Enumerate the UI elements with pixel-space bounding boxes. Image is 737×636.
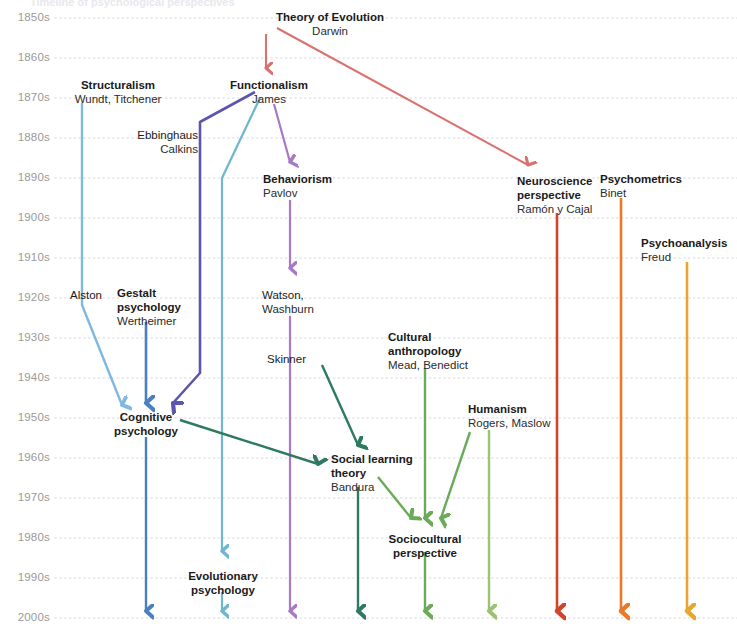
node-theory-of-evolution-subtitle: Darwin <box>276 24 384 38</box>
node-sociocultural-perspective[interactable]: Sociocultural perspective <box>389 532 462 560</box>
flow-humanism-to-sociocultural <box>441 432 470 518</box>
decade-label-1890s: 1890s <box>4 171 50 183</box>
node-theory-of-evolution-title: Theory of Evolution <box>276 10 384 24</box>
decade-label-1880s: 1880s <box>4 131 50 143</box>
flow-structuralism-to-cognitive <box>82 103 122 405</box>
node-cultural-anthropology-subtitle: Mead, Benedict <box>388 358 468 372</box>
node-gestalt-psychology[interactable]: Gestalt psychology Wertheimer <box>117 286 181 328</box>
node-behaviorism-title: Behaviorism <box>263 172 332 186</box>
decade-label-1910s: 1910s <box>4 251 50 263</box>
node-cognitive-psychology-title: Cognitive psychology <box>114 410 178 438</box>
node-ebbinghaus-calkins[interactable]: Ebbinghaus Calkins <box>137 128 198 156</box>
node-structuralism-title: Structuralism <box>75 78 162 92</box>
node-psychometrics-title: Psychometrics <box>600 172 682 186</box>
decade-label-1900s: 1900s <box>4 211 50 223</box>
node-functionalism-title: Functionalism <box>230 78 308 92</box>
decade-label-2000s: 2000s <box>4 611 50 623</box>
decade-label-1850s: 1850s <box>4 11 50 23</box>
node-psychoanalysis[interactable]: Psychoanalysis Freud <box>641 236 727 264</box>
node-cultural-anthropology[interactable]: Cultural anthropology Mead, Benedict <box>388 330 468 372</box>
node-behaviorism-subtitle: Pavlov <box>263 186 332 200</box>
decade-label-1920s: 1920s <box>4 291 50 303</box>
flow-darwin-to-neuroscience <box>277 28 528 165</box>
node-alston-title: Alston <box>70 288 102 302</box>
node-structuralism[interactable]: Structuralism Wundt, Titchener <box>75 78 162 106</box>
node-evolutionary-psychology-title: Evolutionary psychology <box>188 569 258 597</box>
node-ebbinghaus-calkins-title: Ebbinghaus <box>137 128 198 142</box>
node-cognitive-psychology[interactable]: Cognitive psychology <box>114 410 178 438</box>
node-gestalt-psychology-title: Gestalt psychology <box>117 286 181 314</box>
node-functionalism[interactable]: Functionalism James <box>230 78 308 106</box>
node-psychometrics[interactable]: Psychometrics Binet <box>600 172 682 200</box>
node-psychoanalysis-subtitle: Freud <box>641 250 727 264</box>
node-social-learning-theory-subtitle: Bandura <box>331 480 413 494</box>
decade-label-1860s: 1860s <box>4 51 50 63</box>
decade-label-1950s: 1950s <box>4 411 50 423</box>
node-psychoanalysis-title: Psychoanalysis <box>641 236 727 250</box>
node-functionalism-subtitle: James <box>230 92 308 106</box>
node-social-learning-theory[interactable]: Social learning theory Bandura <box>331 452 413 494</box>
node-neuroscience-perspective[interactable]: Neuroscience perspective Ramón y Cajal <box>517 174 592 216</box>
timeline-diagram: Timeline of psychological perspectives <box>0 0 737 636</box>
decade-label-1990s: 1990s <box>4 571 50 583</box>
node-gestalt-psychology-subtitle: Wertheimer <box>117 314 181 328</box>
decade-label-1930s: 1930s <box>4 331 50 343</box>
node-watson-washburn-subtitle: Washburn <box>262 302 314 316</box>
decade-label-1870s: 1870s <box>4 91 50 103</box>
flow-functionalism-to-behaviorism <box>274 104 290 162</box>
node-psychometrics-subtitle: Binet <box>600 186 682 200</box>
node-cultural-anthropology-title: Cultural anthropology <box>388 330 468 358</box>
decade-label-1940s: 1940s <box>4 371 50 383</box>
node-ebbinghaus-calkins-subtitle: Calkins <box>137 142 198 156</box>
decade-label-1970s: 1970s <box>4 491 50 503</box>
flow-skinner-to-social-learning <box>322 365 358 445</box>
node-social-learning-theory-title: Social learning theory <box>331 452 413 480</box>
node-watson-washburn[interactable]: Watson, Washburn <box>262 288 314 316</box>
node-humanism-title: Humanism <box>468 402 550 416</box>
decade-label-1960s: 1960s <box>4 451 50 463</box>
node-theory-of-evolution[interactable]: Theory of Evolution Darwin <box>276 10 384 38</box>
node-neuroscience-perspective-title: Neuroscience perspective <box>517 174 592 202</box>
node-evolutionary-psychology[interactable]: Evolutionary psychology <box>188 569 258 597</box>
flow-functionalism-to-evolutionary <box>222 98 260 551</box>
node-humanism[interactable]: Humanism Rogers, Maslow <box>468 402 550 430</box>
flow-cognitive-to-social-learning <box>180 420 318 464</box>
node-structuralism-subtitle: Wundt, Titchener <box>75 92 162 106</box>
node-neuroscience-perspective-subtitle: Ramón y Cajal <box>517 202 592 216</box>
node-skinner-title: Skinner <box>267 352 306 366</box>
decade-label-1980s: 1980s <box>4 531 50 543</box>
node-behaviorism[interactable]: Behaviorism Pavlov <box>263 172 332 200</box>
node-alston[interactable]: Alston <box>70 288 102 302</box>
node-skinner[interactable]: Skinner <box>267 352 306 366</box>
node-watson-washburn-title: Watson, <box>262 288 314 302</box>
node-sociocultural-perspective-title: Sociocultural perspective <box>389 532 462 560</box>
node-humanism-subtitle: Rogers, Maslow <box>468 416 550 430</box>
